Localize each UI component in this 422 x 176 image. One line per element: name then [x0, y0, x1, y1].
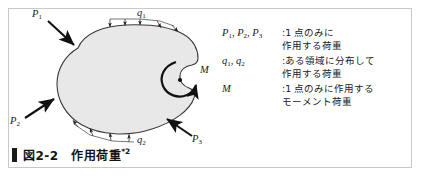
- figure-page: P1 P2 P3 q1 q2 M P1, P2, P3 :1 点のみに 作用する…: [0, 0, 422, 176]
- label-p3: P3: [192, 133, 202, 146]
- caption-block-marker-icon: [12, 148, 17, 162]
- point-load-p2-arrow: [25, 99, 54, 118]
- legend-symbol-moment-load: M: [222, 82, 282, 95]
- legend: P1, P2, P3 :1 点のみに 作用する荷重 q1, q2 :ある領域に分…: [222, 26, 408, 110]
- legend-description-distributed-loads: :ある領域に分布して 作用する荷重: [282, 54, 408, 80]
- label-p1: P1: [32, 8, 42, 21]
- caption-label: 図2-2 作用荷重*2: [23, 146, 130, 164]
- legend-row-moment-load: M :1 点のみに作用する モーメント荷重: [222, 82, 408, 108]
- loaded-body: [57, 25, 198, 134]
- legend-description-moment-load: :1 点のみに作用する モーメント荷重: [282, 82, 408, 108]
- legend-description-point-loads: :1 点のみに 作用する荷重: [282, 26, 408, 52]
- legend-row-distributed-loads: q1, q2 :ある領域に分布して 作用する荷重: [222, 54, 408, 80]
- point-load-p3-arrow: [167, 119, 192, 136]
- legend-row-point-loads: P1, P2, P3 :1 点のみに 作用する荷重: [222, 26, 408, 52]
- label-q1: q1: [137, 7, 146, 20]
- point-load-p1-arrow: [48, 21, 74, 45]
- label-m: M: [200, 64, 209, 75]
- figure-caption: 図2-2 作用荷重*2: [12, 146, 130, 164]
- moment-center-dot: [178, 78, 182, 82]
- label-p2: P2: [10, 115, 20, 128]
- legend-symbol-distributed-loads: q1, q2: [222, 54, 282, 71]
- label-q2: q2: [137, 134, 146, 147]
- body-outline: [57, 25, 198, 134]
- legend-symbol-point-loads: P1, P2, P3: [222, 26, 282, 43]
